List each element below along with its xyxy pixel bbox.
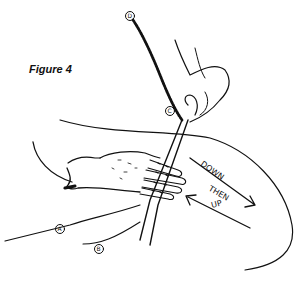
limb-outline-lower-a: [5, 205, 140, 241]
annotation-up: UP: [210, 198, 223, 210]
instrument-shaft: [140, 120, 188, 245]
clinician-hand: [175, 40, 229, 122]
label-c: C: [168, 107, 172, 114]
annotation-down: DOWN: [199, 159, 226, 181]
patient-hand: [100, 152, 160, 158]
cord: [133, 20, 182, 120]
label-a: A: [58, 225, 63, 232]
figure-illustration: D C A B DOWN THEN UP: [0, 0, 295, 282]
label-b: B: [97, 245, 101, 252]
finger-2: [144, 170, 186, 184]
label-d: D: [128, 12, 133, 19]
finger-3: [142, 180, 182, 193]
limb-outline-left: [33, 142, 72, 182]
limb-outline-lower-b: [83, 222, 140, 244]
